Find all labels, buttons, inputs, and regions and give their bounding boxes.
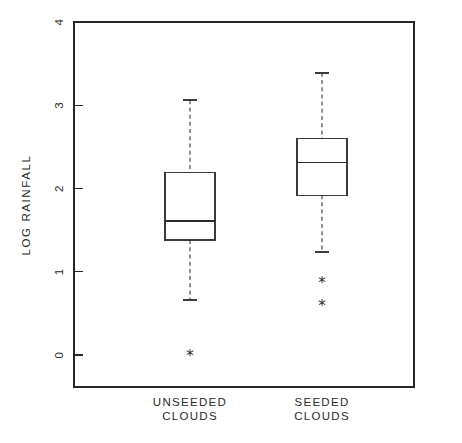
figure-background xyxy=(0,0,462,443)
category-label-line2: CLOUDS xyxy=(162,410,218,422)
category-label-line1: SEEDED xyxy=(294,396,349,408)
outlier-marker: * xyxy=(318,297,326,315)
y-axis-title: LOG RAINFALL xyxy=(20,154,32,255)
plot-canvas: 01234 *** UNSEEDEDCLOUDSSEEDEDCLOUDS LOG… xyxy=(0,0,462,443)
y-axis-tick-label: 4 xyxy=(53,18,65,25)
category-label-line2: CLOUDS xyxy=(294,410,350,422)
outlier-marker: * xyxy=(186,347,194,365)
y-axis-tick-label: 1 xyxy=(53,268,65,275)
y-axis-tick-label: 0 xyxy=(53,352,65,359)
y-axis-tick-label: 3 xyxy=(53,102,65,109)
outlier-marker: * xyxy=(318,274,326,292)
category-label-line1: UNSEEDED xyxy=(153,396,227,408)
y-axis-tick-label: 2 xyxy=(53,185,65,192)
boxplot-figure: 01234 *** UNSEEDEDCLOUDSSEEDEDCLOUDS LOG… xyxy=(0,0,462,443)
